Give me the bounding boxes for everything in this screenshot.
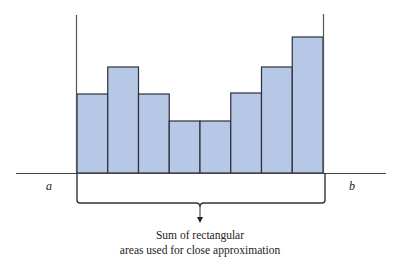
rectangle-6 <box>231 93 262 173</box>
rectangle-2 <box>108 67 139 173</box>
rectangle-8 <box>292 37 323 173</box>
caption-line-1: Sum of rectangular <box>156 229 244 242</box>
label-a: a <box>46 179 52 193</box>
rectangle-5 <box>200 121 231 173</box>
rectangle-4 <box>169 121 200 173</box>
rectangle-3 <box>139 94 170 173</box>
brace <box>77 173 325 207</box>
riemann-sum-diagram: a b Sum of rectangular areas used for cl… <box>0 0 395 260</box>
rectangle-1 <box>77 94 108 173</box>
label-b: b <box>349 179 355 193</box>
caption-line-2: areas used for close approximation <box>120 244 281 257</box>
rectangles <box>77 37 323 173</box>
arrow-head-icon <box>197 217 203 223</box>
rectangle-7 <box>262 67 293 173</box>
